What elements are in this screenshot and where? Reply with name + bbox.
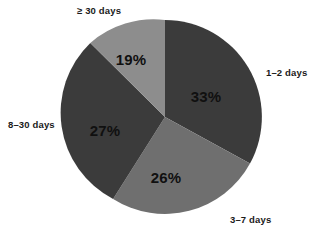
pie-label-ge-30-days: ≥ 30 days — [77, 5, 121, 16]
pie-value-1-2-days: 33% — [191, 88, 222, 105]
pie-value-3-7-days: 26% — [151, 169, 182, 186]
pie-label-3-7-days: 3–7 days — [230, 214, 271, 225]
pie-value-ge-30-days: 19% — [116, 51, 147, 68]
pie-label-1-2-days: 1–2 days — [266, 67, 307, 78]
pie-value-8-30-days: 27% — [90, 122, 121, 139]
pie-chart-figure: 33% 26% 27% 19% ≥ 30 days 1–2 days 3–7 d… — [0, 0, 315, 241]
pie-label-8-30-days: 8–30 days — [8, 119, 55, 130]
